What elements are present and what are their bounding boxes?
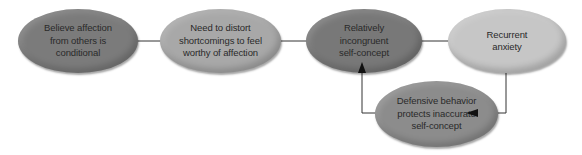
node-recurrent-anxiety: Recurrent anxiety xyxy=(448,9,566,73)
node-defensive-behavior: Defensive behavior protects inaccurate s… xyxy=(375,81,498,147)
node-label: Recurrent anxiety xyxy=(477,29,538,54)
node-label: Relatively incongruent self-concept xyxy=(329,22,399,60)
self-concept-cycle-diagram: Believe affection from others is conditi… xyxy=(0,0,582,155)
node-label: Believe affection from others is conditi… xyxy=(34,22,122,60)
node-need-to-distort-shortcomings: Need to distort shortcomings to feel wor… xyxy=(160,9,281,73)
node-label: Need to distort shortcomings to feel wor… xyxy=(169,22,272,60)
node-label: Defensive behavior protects inaccurate s… xyxy=(387,95,487,133)
node-believe-affection-conditional: Believe affection from others is conditi… xyxy=(18,9,138,73)
node-incongruent-self-concept: Relatively incongruent self-concept xyxy=(306,9,422,73)
